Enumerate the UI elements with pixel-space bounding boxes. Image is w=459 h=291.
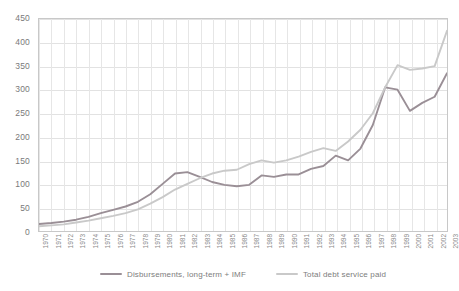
x-axis-tick-label: 1971 xyxy=(55,234,62,248)
legend-swatch-icon xyxy=(100,273,122,276)
x-axis-tick-label: 1982 xyxy=(191,234,198,248)
x-axis-tick-label: 2001 xyxy=(427,234,434,248)
chart-legend: Disbursements, long-term + IMFTotal debt… xyxy=(38,266,448,282)
x-axis-tick-label: 1996 xyxy=(365,234,372,248)
legend-label: Total debt service paid xyxy=(303,270,386,279)
series-layer xyxy=(39,19,447,231)
legend-swatch-icon xyxy=(276,273,298,276)
legend-entry-2[interactable]: Total debt service paid xyxy=(276,270,386,279)
x-axis-tick-label: 1999 xyxy=(403,234,410,248)
x-axis-tick-label: 1990 xyxy=(291,234,298,248)
x-axis-tick-label: 1970 xyxy=(42,234,49,248)
y-axis-tick-label: 0 xyxy=(25,228,30,237)
x-axis-tick-label: 1985 xyxy=(229,234,236,248)
legend-label: Disbursements, long-term + IMF xyxy=(127,270,246,279)
x-axis-tick-label: 1980 xyxy=(166,234,173,248)
x-axis: 1970197119721973197419751976197719781979… xyxy=(38,234,448,264)
y-axis-tick-label: 100 xyxy=(15,180,30,189)
x-axis-tick-label: 1984 xyxy=(216,234,223,248)
y-axis-tick-label: 400 xyxy=(15,37,30,46)
y-axis: 450400350300250200150100500 xyxy=(0,18,34,232)
y-axis-tick-label: 250 xyxy=(15,109,30,118)
x-axis-tick-label: 1994 xyxy=(340,234,347,248)
y-axis-tick-label: 200 xyxy=(15,132,30,141)
x-axis-tick-label: 1983 xyxy=(204,234,211,248)
legend-entry-1[interactable]: Disbursements, long-term + IMF xyxy=(100,270,246,279)
y-axis-tick-label: 50 xyxy=(20,204,30,213)
x-axis-tick-label: 1993 xyxy=(328,234,335,248)
x-axis-tick-label: 1975 xyxy=(104,234,111,248)
x-axis-tick-label: 1978 xyxy=(142,234,149,248)
x-axis-tick-label: 1976 xyxy=(117,234,124,248)
x-axis-tick-label: 1979 xyxy=(154,234,161,248)
x-axis-tick-label: 1992 xyxy=(316,234,323,248)
x-axis-tick-label: 1974 xyxy=(92,234,99,248)
x-axis-tick-label: 2002 xyxy=(440,234,447,248)
y-axis-tick-label: 150 xyxy=(15,156,30,165)
x-axis-tick-label: 1989 xyxy=(278,234,285,248)
plot-area xyxy=(38,18,448,232)
y-axis-tick-label: 350 xyxy=(15,61,30,70)
y-axis-tick-label: 300 xyxy=(15,85,30,94)
x-axis-tick-label: 1997 xyxy=(378,234,385,248)
x-axis-tick-label: 2003 xyxy=(452,234,459,248)
x-axis-tick-label: 1987 xyxy=(253,234,260,248)
x-axis-tick-label: 1995 xyxy=(353,234,360,248)
x-axis-tick-label: 1972 xyxy=(67,234,74,248)
x-axis-tick-label: 1986 xyxy=(241,234,248,248)
x-axis-tick-label: 1973 xyxy=(79,234,86,248)
x-axis-tick-label: 1998 xyxy=(390,234,397,248)
x-axis-tick-label: 1988 xyxy=(266,234,273,248)
y-axis-tick-label: 450 xyxy=(15,14,30,23)
x-axis-tick-label: 1977 xyxy=(129,234,136,248)
series-line-2 xyxy=(39,31,447,227)
x-axis-tick-label: 1981 xyxy=(179,234,186,248)
x-axis-tick-label: 2000 xyxy=(415,234,422,248)
series-line-1 xyxy=(39,73,447,224)
x-axis-tick-label: 1991 xyxy=(303,234,310,248)
